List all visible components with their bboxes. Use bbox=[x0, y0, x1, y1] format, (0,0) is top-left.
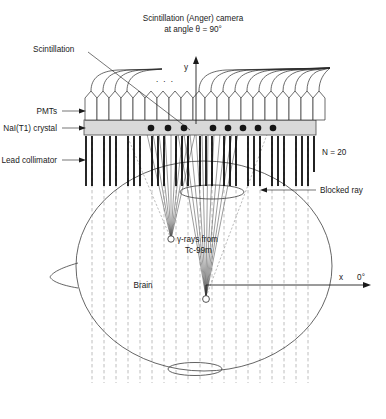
pmt-tube bbox=[109, 91, 121, 120]
pmt-tube bbox=[157, 91, 169, 120]
blocked-ray-path bbox=[206, 132, 268, 297]
pmt-tube bbox=[181, 91, 193, 120]
figure-canvas: Scintillation (Anger) camera at angle θ … bbox=[0, 0, 386, 419]
scintillation-dots bbox=[148, 125, 277, 132]
pmt-array bbox=[85, 91, 325, 120]
x-axis-arrowhead bbox=[363, 282, 371, 288]
pmt-count-label: N = 20 bbox=[322, 148, 347, 157]
pmt-tube bbox=[145, 91, 157, 120]
pmt-tube bbox=[217, 91, 229, 120]
scintillation-dot bbox=[240, 125, 247, 132]
bottom-slice-disc bbox=[168, 363, 222, 376]
pmt-tube bbox=[253, 91, 265, 120]
brain-nose bbox=[50, 263, 78, 288]
x-axis-label: x bbox=[339, 273, 343, 282]
figure-title-line1: Scintillation (Anger) camera bbox=[143, 14, 244, 23]
nai-crystal-band bbox=[84, 120, 316, 135]
pmt-ellipsis: · · · bbox=[156, 77, 175, 86]
scintillation-dot bbox=[165, 125, 172, 132]
pmt-tube bbox=[133, 91, 145, 120]
pmt-tube bbox=[97, 91, 109, 120]
pmt-tube bbox=[229, 91, 241, 120]
blocked-ray-arrowhead bbox=[260, 188, 267, 193]
pmt-tube bbox=[265, 91, 277, 120]
light-guide-arcs bbox=[91, 68, 330, 91]
scintillation-dot bbox=[148, 125, 155, 132]
scintillation-label: Scintillation bbox=[33, 45, 75, 54]
pmt-tube bbox=[193, 91, 205, 120]
diagram-svg: Scintillation (Anger) camera at angle θ … bbox=[0, 0, 386, 419]
scintillation-dot bbox=[255, 125, 262, 132]
gamma-source-marker-secondary bbox=[168, 236, 174, 242]
y-axis-label: y bbox=[184, 63, 189, 72]
brain-label: Brain bbox=[133, 281, 153, 290]
pmt-tube bbox=[313, 91, 325, 120]
blocked-ray-label: Blocked ray bbox=[320, 186, 364, 195]
gamma-source-label-line1: γ-rays from bbox=[177, 235, 218, 244]
angle-zero-label: 0° bbox=[357, 273, 365, 282]
pmt-tube bbox=[85, 91, 97, 120]
pmt-tube bbox=[301, 91, 313, 120]
pmt-tube bbox=[241, 91, 253, 120]
scintillation-dot bbox=[210, 125, 217, 132]
pmt-tube bbox=[121, 91, 133, 120]
figure-title-line2: at angle θ = 90° bbox=[164, 25, 222, 34]
pmts-label: PMTs bbox=[37, 107, 57, 116]
pmt-tube bbox=[277, 91, 289, 120]
collimator-label: Lead collimator bbox=[1, 156, 57, 165]
crystal-label: NaI(T1) crystal bbox=[3, 124, 57, 133]
gamma-source-marker-primary bbox=[203, 296, 210, 303]
lead-collimator-septa bbox=[86, 136, 314, 186]
scintillation-dot bbox=[270, 125, 277, 132]
gamma-source-label-line2: Tc-99m bbox=[185, 246, 212, 255]
pmt-tube bbox=[205, 91, 217, 120]
gamma-ray-fan-primary bbox=[178, 134, 238, 297]
y-axis-arrowhead bbox=[193, 56, 199, 64]
scintillation-dot bbox=[225, 125, 232, 132]
pmt-tube bbox=[289, 91, 301, 120]
x-axis-line bbox=[206, 285, 365, 297]
collimator-arrowhead bbox=[79, 158, 86, 163]
